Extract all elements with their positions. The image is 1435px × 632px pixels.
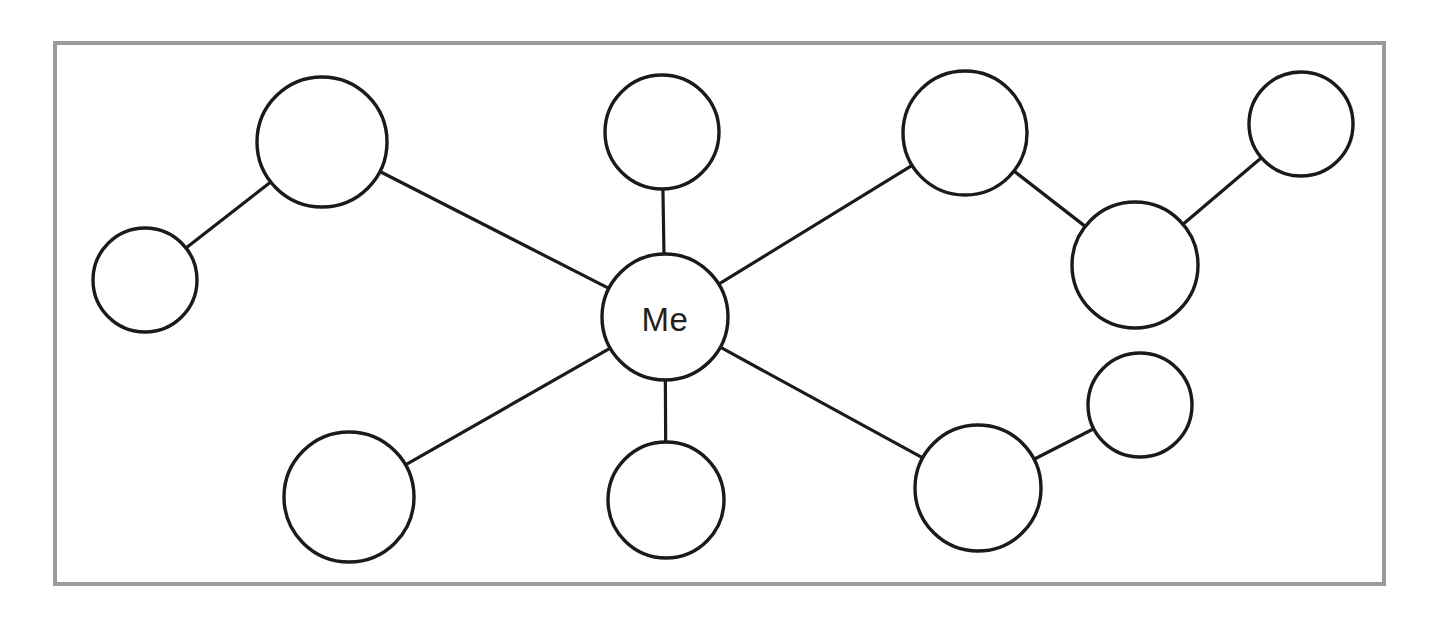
node-circle-n-upright[interactable] <box>903 71 1027 195</box>
connector-line-n-upright-to-n-midright <box>1014 171 1085 226</box>
satellite-node-n-lowright[interactable] <box>915 425 1041 551</box>
satellite-node-n-lowleft[interactable] <box>284 432 414 562</box>
node-circle-n-botright[interactable] <box>1088 353 1192 457</box>
connector-line-me-to-n-top <box>663 189 664 254</box>
node-circle-n-farright[interactable] <box>1249 72 1353 176</box>
node-label-me: Me <box>642 301 689 338</box>
connector-line-n-upleft-to-n-farleft <box>186 182 271 248</box>
node-circle-n-lowright[interactable] <box>915 425 1041 551</box>
satellite-node-n-farright[interactable] <box>1249 72 1353 176</box>
connector-line-me-to-n-upleft <box>380 172 609 289</box>
satellite-node-n-upleft[interactable] <box>257 77 387 207</box>
node-circle-n-midright[interactable] <box>1072 202 1198 328</box>
network-web-diagram: Me <box>0 0 1435 632</box>
connector-line-me-to-n-upright <box>719 165 912 284</box>
satellite-node-n-midright[interactable] <box>1072 202 1198 328</box>
center-node-me[interactable]: Me <box>602 254 728 380</box>
satellite-node-n-bottom[interactable] <box>608 442 724 558</box>
satellite-node-n-top[interactable] <box>605 75 719 189</box>
connector-line-me-to-n-lowright <box>720 347 922 458</box>
node-circle-n-farleft[interactable] <box>93 228 197 332</box>
satellite-node-n-farleft[interactable] <box>93 228 197 332</box>
worksheet-page: Me <box>0 0 1435 632</box>
node-circle-n-lowleft[interactable] <box>284 432 414 562</box>
connector-line-n-lowright-to-n-botright <box>1034 429 1094 460</box>
satellite-node-n-botright[interactable] <box>1088 353 1192 457</box>
node-circle-n-bottom[interactable] <box>608 442 724 558</box>
node-layer: Me <box>93 71 1353 562</box>
satellite-node-n-upright[interactable] <box>903 71 1027 195</box>
connector-line-me-to-n-lowleft <box>405 348 610 465</box>
node-circle-n-upleft[interactable] <box>257 77 387 207</box>
connector-line-n-midright-to-n-farright <box>1183 158 1261 225</box>
node-circle-n-top[interactable] <box>605 75 719 189</box>
